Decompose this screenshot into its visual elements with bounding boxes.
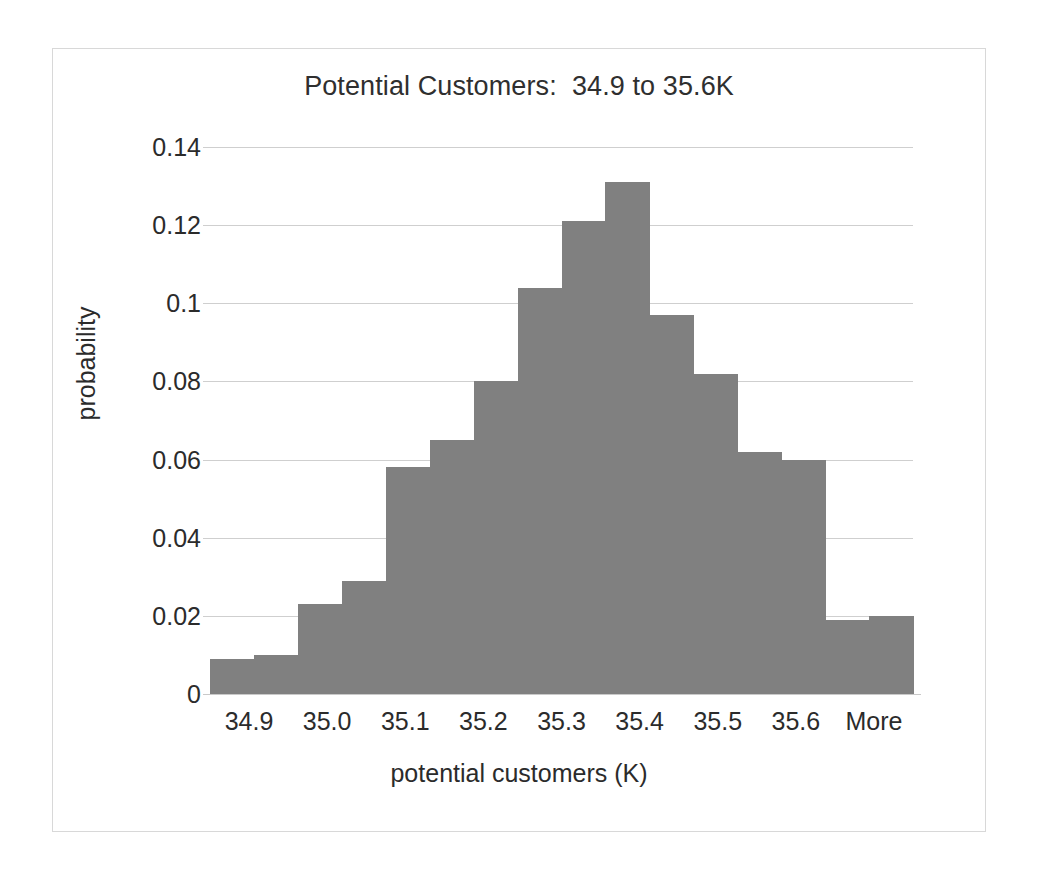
histogram-bar <box>649 315 694 694</box>
x-axis-line <box>203 694 921 695</box>
y-axis-tick-label: 0.12 <box>91 211 201 240</box>
histogram-bar <box>298 604 343 694</box>
histogram-bar <box>825 620 870 694</box>
histogram-bar <box>869 616 914 694</box>
histogram-bar <box>386 467 431 694</box>
y-axis-tick-label: 0.04 <box>91 523 201 552</box>
histogram-bar <box>781 460 826 694</box>
x-axis-tick-labels: 34.935.035.135.235.335.435.535.6More <box>210 707 913 743</box>
y-axis-tick-label: 0.06 <box>91 445 201 474</box>
histogram-bar <box>605 182 650 694</box>
histogram-bar <box>430 440 475 694</box>
y-axis-tick-label: 0.08 <box>91 367 201 396</box>
x-axis-title: potential customers (K) <box>53 759 985 788</box>
plot-area <box>210 147 913 694</box>
y-axis-tick-label: 0.1 <box>91 289 201 318</box>
gridline <box>203 147 913 148</box>
chart-title: Potential Customers: 34.9 to 35.6K <box>53 71 985 102</box>
histogram-bar <box>562 221 607 694</box>
y-axis-tick-label: 0 <box>91 680 201 709</box>
histogram-bar <box>210 659 255 694</box>
histogram-bar <box>693 374 738 694</box>
y-axis-tick-labels: 00.020.040.060.080.10.120.14 <box>91 147 201 694</box>
histogram-bar <box>518 288 563 694</box>
gridline <box>203 225 913 226</box>
chart-figure-frame: Potential Customers: 34.9 to 35.6K proba… <box>52 48 986 832</box>
y-axis-tick-label: 0.02 <box>91 601 201 630</box>
histogram-bar <box>737 452 782 694</box>
x-axis-tick-label: More <box>814 707 934 736</box>
histogram-bar <box>254 655 299 694</box>
histogram-bar <box>342 581 387 694</box>
histogram-bar <box>474 381 519 694</box>
y-axis-tick-label: 0.14 <box>91 133 201 162</box>
